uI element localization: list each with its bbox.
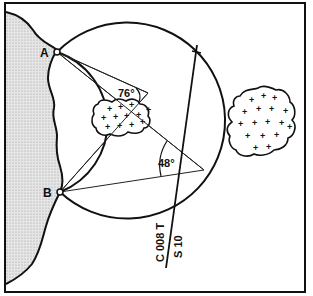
svg-text:+: + bbox=[260, 131, 265, 141]
svg-text:+: + bbox=[242, 107, 247, 117]
navigation-diagram: +++ ++++ ++++ + +++ ++++ ++++ ++++ ++ A … bbox=[0, 0, 313, 296]
svg-text:+: + bbox=[146, 105, 151, 115]
line-b-to-min-vertex bbox=[60, 170, 204, 192]
svg-text:+: + bbox=[107, 104, 112, 114]
course-line-tick bbox=[192, 51, 201, 53]
diagram-canvas: +++ ++++ ++++ + +++ ++++ ++++ ++++ ++ A … bbox=[0, 0, 313, 296]
course-label: C 008 T bbox=[154, 223, 166, 262]
svg-text:+: + bbox=[279, 118, 284, 128]
svg-text:+: + bbox=[287, 122, 292, 132]
svg-text:+: + bbox=[265, 117, 270, 127]
svg-text:+: + bbox=[261, 91, 266, 101]
svg-text:+: + bbox=[249, 95, 254, 105]
svg-text:+: + bbox=[238, 119, 243, 129]
angle-label-48: 48° bbox=[158, 157, 175, 169]
svg-text:+: + bbox=[129, 120, 134, 130]
svg-text:+: + bbox=[245, 131, 250, 141]
point-b-label: B bbox=[43, 186, 52, 200]
svg-text:+: + bbox=[269, 104, 274, 114]
svg-text:+: + bbox=[266, 142, 271, 152]
speed-label: S 10 bbox=[172, 235, 184, 258]
point-a-marker bbox=[54, 49, 60, 55]
svg-text:+: + bbox=[274, 130, 279, 140]
svg-text:+: + bbox=[256, 104, 261, 114]
svg-text:+: + bbox=[283, 106, 288, 116]
svg-text:+: + bbox=[253, 143, 258, 153]
angle-label-76: 76° bbox=[118, 87, 135, 99]
svg-text:+: + bbox=[105, 122, 110, 132]
point-a-label: A bbox=[40, 46, 49, 60]
point-b-marker bbox=[57, 189, 63, 195]
svg-text:+: + bbox=[252, 118, 257, 128]
svg-text:+: + bbox=[272, 93, 277, 103]
svg-text:+: + bbox=[129, 100, 134, 110]
